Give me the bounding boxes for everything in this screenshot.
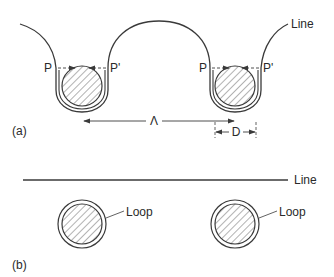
- panel-b-label: (b): [12, 258, 27, 272]
- wavelength-label: Λ: [150, 114, 158, 128]
- right-p-prime-label: P': [263, 61, 273, 75]
- panel-b: Line Loop Loop (b): [12, 173, 317, 272]
- right-p-label: P: [199, 61, 207, 75]
- diameter-label: D: [232, 125, 241, 139]
- loop-line-diagram: P P' P P' Λ D Line (a) Line Loop: [0, 0, 334, 277]
- panel-a: P P' P P' Λ D Line (a): [12, 17, 314, 139]
- right-loop-section: [215, 66, 255, 106]
- panel-b-line-label: Line: [294, 173, 317, 187]
- panel-a-label: (a): [12, 124, 27, 138]
- left-loop-label: Loop: [126, 205, 153, 219]
- panel-a-line-label: Line: [291, 17, 314, 31]
- left-loop-inner: [62, 204, 102, 244]
- right-loop-label: Loop: [279, 205, 306, 219]
- left-p-label: P: [44, 61, 52, 75]
- left-p-prime-label: P': [110, 61, 120, 75]
- right-loop-leader: [259, 211, 277, 218]
- right-loop-inner: [215, 204, 255, 244]
- left-loop-section: [62, 66, 102, 106]
- left-loop-leader: [106, 211, 124, 218]
